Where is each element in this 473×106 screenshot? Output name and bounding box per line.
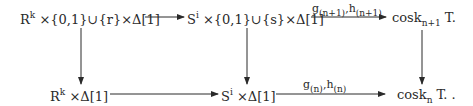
label-g: g (312, 2, 319, 15)
node-bottom-2: Si ×Δ[1] (221, 88, 276, 103)
label-h-sub: (n+1) (356, 8, 382, 18)
node-base: cosk (392, 10, 422, 25)
node-rest: T. (441, 10, 456, 25)
node-sub: n+1 (422, 18, 441, 28)
label-h-sub: (n) (333, 84, 346, 94)
node-top-3: coskn+1 T. (392, 11, 456, 28)
node-base: S (221, 89, 230, 104)
node-rest: ×{0,1}∪{s}×Δ[1] (199, 12, 324, 27)
node-top-2: Si ×{0,1}∪{s}×Δ[1] (187, 11, 324, 26)
node-base: cosk (397, 87, 427, 102)
node-rest: ×Δ[1] (65, 89, 108, 104)
label-g-sub: (n) (310, 84, 323, 94)
node-base: R (20, 12, 30, 27)
node-bottom-3: coskn T. . (397, 88, 456, 105)
label-bottom-arrow: g(n),h(n) (303, 79, 346, 94)
node-base: R (50, 89, 60, 104)
node-base: S (187, 12, 196, 27)
node-rest: T. . (432, 87, 455, 102)
label-g-sub: (n+1) (319, 8, 345, 18)
node-rest: ×Δ[1] (233, 89, 276, 104)
label-h: h (349, 2, 356, 15)
node-rest: ×{0,1}∪{r}×Δ[1] (35, 12, 160, 27)
node-top-1: Rk ×{0,1}∪{r}×Δ[1] (20, 11, 160, 26)
label-g: g (303, 78, 310, 91)
node-bottom-1: Rk ×Δ[1] (50, 88, 108, 103)
label-top-arrow: g(n+1),h(n+1) (312, 3, 382, 18)
